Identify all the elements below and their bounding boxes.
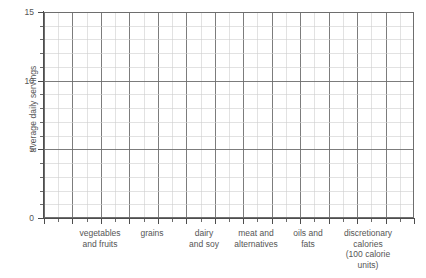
- x-tick-major: [300, 219, 301, 224]
- y-tick-minor: [40, 163, 43, 164]
- y-tick-label: 5: [4, 145, 34, 154]
- y-tick-label: 10: [4, 77, 34, 86]
- x-tick-major: [215, 219, 216, 224]
- x-tick-minor: [257, 219, 258, 222]
- x-tick-major: [101, 219, 102, 224]
- y-tick-major: [38, 12, 43, 13]
- y-tick-minor: [40, 67, 43, 68]
- x-tick-minor: [144, 219, 145, 222]
- y-tick-label: 0: [4, 214, 34, 223]
- x-tick-minor: [87, 219, 88, 222]
- x-tick-major: [243, 219, 244, 224]
- x-tick-minor: [343, 219, 344, 222]
- y-tick-minor: [40, 204, 43, 205]
- x-tick-minor: [115, 219, 116, 222]
- x-tick-minor: [400, 219, 401, 222]
- plot-area: [44, 12, 414, 218]
- x-tick-major: [72, 219, 73, 224]
- y-axis-line: [43, 11, 44, 219]
- y-tick-minor: [40, 191, 43, 192]
- x-tick-major: [129, 219, 130, 224]
- x-tick-major: [44, 219, 45, 224]
- x-tick-minor: [314, 219, 315, 222]
- y-tick-minor: [40, 177, 43, 178]
- y-tick-minor: [40, 53, 43, 54]
- x-tick-major: [158, 219, 159, 224]
- x-tick-major: [357, 219, 358, 224]
- y-tick-major: [38, 81, 43, 82]
- x-category-label: grains: [124, 228, 180, 239]
- y-tick-major: [38, 218, 43, 219]
- x-tick-major: [272, 219, 273, 224]
- x-tick-minor: [172, 219, 173, 222]
- x-tick-minor: [58, 219, 59, 222]
- y-tick-minor: [40, 26, 43, 27]
- x-tick-minor: [371, 219, 372, 222]
- y-tick-minor: [40, 94, 43, 95]
- x-tick-major: [414, 219, 415, 224]
- y-tick-minor: [40, 136, 43, 137]
- y-tick-major: [38, 149, 43, 150]
- y-tick-minor: [40, 39, 43, 40]
- x-category-label: discretionary calories (100 calorie unit…: [325, 228, 411, 270]
- x-tick-minor: [201, 219, 202, 222]
- y-tick-minor: [40, 108, 43, 109]
- y-tick-minor: [40, 122, 43, 123]
- y-axis-title: average daily servings: [28, 29, 38, 189]
- y-tick-label: 15: [4, 8, 34, 17]
- x-tick-major: [329, 219, 330, 224]
- grid-lines: [44, 12, 414, 218]
- x-tick-minor: [229, 219, 230, 222]
- x-tick-minor: [286, 219, 287, 222]
- chart-container: average daily servings 151050 vegetables…: [0, 0, 426, 278]
- x-tick-major: [186, 219, 187, 224]
- x-tick-major: [386, 219, 387, 224]
